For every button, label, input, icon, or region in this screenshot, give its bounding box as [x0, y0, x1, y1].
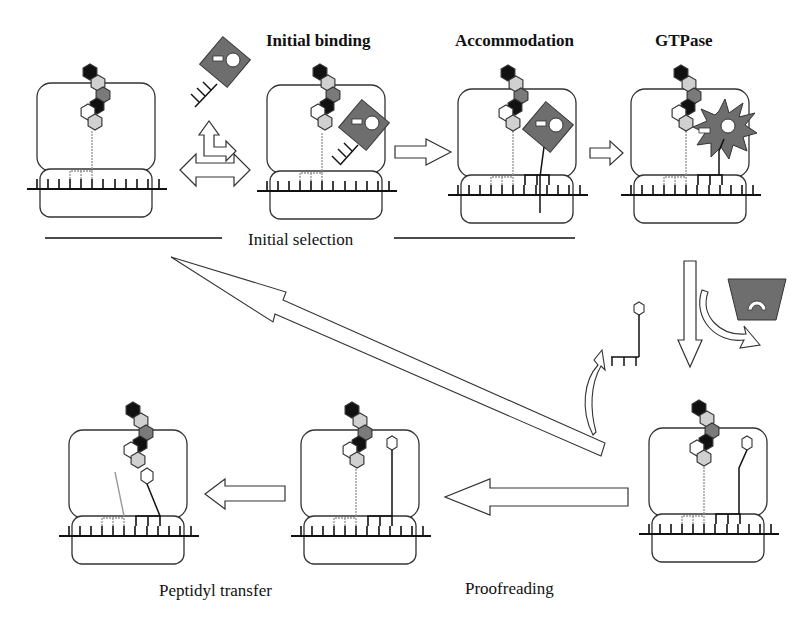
rejection-return-arrow-icon	[171, 257, 605, 456]
ribosome-panel-initial-binding	[257, 64, 397, 219]
ribosome-panel-peptidyl-transfer	[59, 402, 199, 564]
stage-title-accommodation: Accommodation	[455, 31, 575, 50]
arrow-right-icon	[395, 139, 451, 165]
ribosome-panel-accommodation	[448, 65, 588, 223]
ef-tu-gdp-released-icon	[728, 279, 786, 320]
arrow-left-icon	[445, 479, 628, 515]
rejection-curved-arrow-icon	[585, 350, 605, 435]
rejected-trna-icon	[611, 302, 644, 366]
ribosome-panel-accommodated	[291, 402, 431, 564]
equilibrium-arrow-icon	[180, 121, 250, 186]
stage-title-gtpase: GTPase	[655, 31, 713, 50]
free-ternary-complex-icon	[191, 37, 250, 107]
arrow-right-icon	[590, 141, 623, 165]
arrow-left-icon	[205, 479, 285, 509]
phase-label-initial-selection: Initial selection	[248, 230, 354, 249]
arrow-down-icon	[678, 261, 702, 367]
ribosome-panel-empty	[27, 64, 167, 217]
phase-label-proofreading: Proofreading	[465, 579, 554, 598]
stage-title-initial-binding: Initial binding	[266, 31, 371, 50]
ribosome-panel-gtpase	[621, 65, 761, 223]
phase-label-peptidyl-transfer: Peptidyl transfer	[159, 581, 272, 600]
ribosome-panel-trna-released	[639, 400, 779, 562]
translation-elongation-diagram: Initial binding Accommodation GTP	[0, 0, 809, 627]
